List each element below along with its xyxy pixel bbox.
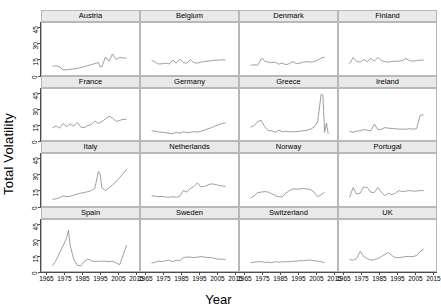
x-tick-label: 2005 [111, 276, 125, 283]
x-tick-label: 1975 [57, 276, 71, 283]
y-axis: 0153045 [22, 22, 41, 76]
plot-area [239, 88, 338, 142]
plot-area [41, 153, 140, 207]
panel-title: Finland [375, 12, 400, 20]
panel-strip: Italy [41, 141, 140, 153]
series-line [53, 230, 127, 266]
panel-belgium: Belgium [140, 10, 239, 76]
x-tick-label: 2005 [210, 276, 224, 283]
panel-germany: Germany [140, 76, 239, 142]
series-line [350, 58, 424, 64]
panel-title: Italy [84, 143, 98, 151]
panel-portugal: Portugal [338, 141, 437, 207]
plot-area [140, 219, 239, 273]
panel-title: Spain [81, 209, 100, 217]
y-tick-label: 15 [33, 255, 40, 262]
series-line [152, 256, 226, 263]
panel-title: Ireland [376, 78, 399, 86]
x-tick-label: 1995 [93, 276, 107, 283]
x-tick-label: 1965 [336, 276, 350, 283]
y-axis-title: Total Volatility [0, 0, 17, 308]
panel-title: Belgium [176, 12, 203, 20]
y-tick-label: 0 [33, 206, 40, 210]
plot-area [140, 88, 239, 142]
plot-area [338, 153, 437, 207]
series-line [251, 57, 325, 65]
x-tick-label: 1995 [390, 276, 404, 283]
y-tick-label: 45 [33, 223, 40, 230]
panel-strip: Germany [140, 76, 239, 88]
y-tick-label: 30 [33, 174, 40, 181]
x-tick-label: 1965 [138, 276, 152, 283]
y-tick-label: 45 [33, 92, 40, 99]
series-line [152, 183, 226, 197]
y-tick-label: 45 [33, 158, 40, 165]
panel-switzerland: Switzerland196519751985199520052015 [239, 207, 338, 273]
panel-strip: Greece [239, 76, 338, 88]
panel-title: Switzerland [269, 209, 308, 217]
panel-strip: Netherlands [140, 141, 239, 153]
series-line [350, 187, 424, 197]
x-tick-label: 1985 [273, 276, 287, 283]
series-line [251, 260, 325, 263]
panel-spain: Spain0153045196519751985199520052015 [41, 207, 140, 273]
y-tick-label: 0 [33, 140, 40, 144]
plot-area [140, 153, 239, 207]
plot-area [140, 22, 239, 76]
series-line [152, 122, 226, 133]
y-tick-label: 15 [33, 190, 40, 197]
panel-title: France [79, 78, 102, 86]
x-tick-label: 1985 [75, 276, 89, 283]
x-tick-label: 2005 [408, 276, 422, 283]
panel-austria: Austria0153045 [41, 10, 140, 76]
series-line [350, 114, 424, 132]
plot-area [239, 153, 338, 207]
panel-title: Sweden [176, 209, 203, 217]
panel-strip: Austria [41, 10, 140, 22]
x-tick-label: 1975 [354, 276, 368, 283]
panel-greece: Greece [239, 76, 338, 142]
x-axis: 196519751985199520052015 [140, 272, 239, 285]
y-axis: 0153045 [22, 219, 41, 273]
series-line [53, 54, 127, 70]
panel-title: Portugal [374, 143, 402, 151]
x-tick-label: 1985 [372, 276, 386, 283]
plot-area [239, 22, 338, 76]
panel-strip: Belgium [140, 10, 239, 22]
panel-uk: UK196519751985199520052015 [338, 207, 437, 273]
series-line [53, 169, 127, 199]
x-tick-label: 2005 [309, 276, 323, 283]
y-axis: 0153045 [22, 88, 41, 142]
x-tick-label: 1975 [156, 276, 170, 283]
plot-area [41, 88, 140, 142]
panel-strip: Finland [338, 10, 437, 22]
panel-netherlands: Netherlands [140, 141, 239, 207]
panel-strip: UK [338, 207, 437, 219]
panel-finland: Finland [338, 10, 437, 76]
x-tick-label: 1995 [192, 276, 206, 283]
x-tick-label: 1995 [291, 276, 305, 283]
panel-strip: Sweden [140, 207, 239, 219]
panel-title: UK [382, 209, 392, 217]
y-tick-label: 0 [33, 75, 40, 79]
y-tick-label: 30 [33, 239, 40, 246]
panel-strip: Norway [239, 141, 338, 153]
panel-sweden: Sweden196519751985199520052015 [140, 207, 239, 273]
x-tick-label: 1965 [39, 276, 53, 283]
x-tick-label: 1985 [174, 276, 188, 283]
series-line [152, 59, 226, 64]
x-tick-label: 1965 [237, 276, 251, 283]
series-line [350, 249, 424, 260]
y-tick-label: 30 [33, 43, 40, 50]
panel-strip: Spain [41, 207, 140, 219]
panel-strip: Ireland [338, 76, 437, 88]
plot-area [41, 219, 140, 273]
plot-area [41, 22, 140, 76]
series-line [251, 94, 329, 134]
series-line [251, 189, 325, 199]
panel-ireland: Ireland [338, 76, 437, 142]
y-tick-label: 15 [33, 59, 40, 66]
panel-denmark: Denmark [239, 10, 338, 76]
y-tick-label: 45 [33, 27, 40, 34]
plot-area [239, 219, 338, 273]
